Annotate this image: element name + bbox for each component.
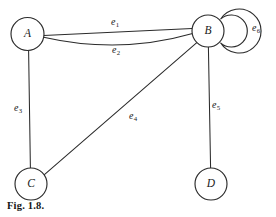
edge-label-e6-base: e [252, 22, 256, 33]
edge-label-e1-base: e [111, 16, 115, 27]
edge-e1-path [44, 28, 193, 35]
edge-e2-path [44, 34, 193, 45]
edge-label-e3: e3 [14, 103, 22, 113]
edge-label-e2-base: e [112, 44, 116, 55]
node-label-B: B [204, 25, 211, 37]
edge-label-e4: e4 [129, 111, 137, 121]
edge-e4-path [44, 43, 196, 175]
edge-label-e5-base: e [212, 99, 216, 110]
edge-e5-path [208, 47, 210, 168]
edge-label-e1: e1 [111, 17, 119, 27]
node-label-D: D [207, 178, 215, 190]
edge-label-e5: e5 [212, 100, 220, 110]
figure-container: A B C D e1 e2 e3 e4 e5 e6 Fig. 1.8. [0, 0, 276, 217]
figure-caption: Fig. 1.8. [7, 200, 44, 211]
edge-label-e3-sub: 3 [19, 107, 22, 114]
graph-canvas [0, 0, 276, 217]
node-label-A: A [24, 28, 31, 40]
edge-label-e4-sub: 4 [134, 115, 137, 122]
edge-label-e3-base: e [14, 102, 18, 113]
edge-label-e1-sub: 1 [116, 21, 119, 28]
edge-e3-path [29, 51, 31, 169]
edge-label-e6: e6 [252, 23, 260, 33]
node-label-C: C [27, 178, 35, 190]
edge-label-e5-sub: 5 [217, 104, 220, 111]
edge-label-e6-sub: 6 [257, 27, 260, 34]
edge-label-e2: e2 [112, 45, 120, 55]
edge-label-e2-sub: 2 [117, 49, 120, 56]
edge-label-e4-base: e [129, 110, 133, 121]
